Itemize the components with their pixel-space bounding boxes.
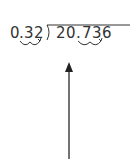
dividend-3: 3 — [92, 24, 103, 42]
up-arrow-icon — [65, 62, 73, 159]
dividend-6: 6 — [102, 24, 113, 42]
dividend-0: 0 — [66, 24, 77, 42]
divisor-2: 2 — [34, 24, 45, 42]
dividend-point: . — [76, 24, 82, 42]
divisor-3: 3 — [24, 24, 35, 42]
dividend: 2 0 . 7 3 6 — [56, 24, 113, 42]
dividend-7: 7 — [82, 24, 93, 42]
divisor: 0 . 3 2 — [10, 24, 45, 42]
bracket-curve — [47, 25, 49, 40]
dividend-2: 2 — [56, 24, 67, 42]
long-division-diagram: 0 . 3 2 2 0 . 7 3 6 — [0, 0, 132, 159]
